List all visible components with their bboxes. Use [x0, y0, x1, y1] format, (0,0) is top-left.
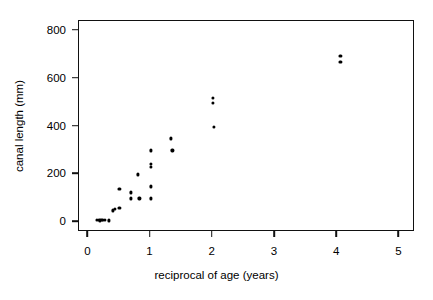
data-point [211, 101, 214, 104]
y-axis-tick-label: 400 [30, 120, 66, 132]
data-point [339, 54, 342, 57]
x-axis-tick [335, 231, 337, 237]
y-axis-title-container: canal length (mm) [10, 0, 28, 251]
data-point [118, 187, 121, 190]
x-axis-tick [398, 231, 400, 237]
data-points-layer [79, 21, 413, 230]
x-axis-tick-label: 2 [209, 245, 215, 257]
data-point [149, 166, 152, 169]
x-axis-tick-label: 4 [333, 245, 339, 257]
data-point [149, 149, 152, 152]
data-point [211, 96, 214, 99]
y-axis-tick-label: 600 [30, 72, 66, 84]
data-point [138, 197, 141, 200]
x-axis-title: reciprocal of age (years) [0, 269, 433, 281]
data-point [129, 191, 132, 194]
data-point [113, 207, 116, 210]
data-point [129, 197, 132, 200]
x-axis-tick-label: 1 [146, 245, 152, 257]
x-axis-tick [149, 231, 151, 237]
data-point [118, 206, 121, 209]
data-point [149, 197, 152, 200]
x-axis-tick [87, 231, 89, 237]
data-point [339, 60, 342, 63]
y-axis-tick-label: 800 [30, 24, 66, 36]
plot-area [78, 20, 414, 231]
data-point [149, 185, 152, 188]
data-point [103, 218, 106, 221]
y-axis-title: canal length (mm) [13, 79, 25, 171]
data-point [212, 125, 215, 128]
data-point [107, 219, 110, 222]
scatter-plot-figure: canal length (mm) 0200400600800 012345 r… [0, 0, 433, 300]
x-axis-tick-label: 3 [271, 245, 277, 257]
x-axis-tick [211, 231, 213, 237]
x-axis-tick-label: 0 [84, 245, 90, 257]
y-axis-tick-label: 200 [30, 167, 66, 179]
data-point [137, 173, 140, 176]
x-axis-tick-label: 5 [395, 245, 401, 257]
x-axis-tick [273, 231, 275, 237]
data-point [169, 137, 172, 140]
data-point [171, 149, 174, 152]
y-axis-tick-label: 0 [30, 215, 66, 227]
